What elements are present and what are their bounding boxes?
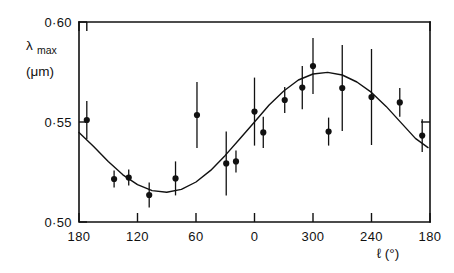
x-tick-label: 120 — [126, 229, 149, 244]
y-tick-label: 0·60 — [44, 15, 72, 30]
y-axis-symbol: λ — [26, 38, 33, 53]
data-marker — [282, 97, 288, 103]
data-marker — [194, 112, 200, 118]
data-point — [84, 101, 90, 139]
data-point — [310, 38, 316, 94]
data-point — [260, 117, 266, 148]
data-marker — [397, 99, 403, 105]
x-tick-label: 240 — [360, 229, 383, 244]
x-axis-title: ℓ (°) — [377, 246, 400, 261]
data-marker — [310, 63, 316, 69]
data-marker — [260, 129, 266, 135]
data-point — [146, 182, 152, 207]
x-axis-top-ticks — [79, 22, 430, 31]
data-marker — [326, 129, 332, 135]
data-point — [419, 119, 425, 152]
x-tick-label: 180 — [419, 229, 442, 244]
data-marker — [299, 85, 305, 91]
data-marker — [233, 158, 239, 164]
figure-container: 0·600·550·50 180120600300240180 λ max (μ… — [0, 0, 454, 273]
data-marker — [339, 85, 345, 91]
y-tick-label: 0·50 — [44, 215, 72, 230]
x-tick-label: 0 — [251, 229, 259, 244]
data-point — [126, 170, 132, 186]
data-marker — [368, 94, 374, 100]
data-point — [326, 118, 332, 146]
y-axis-units: (μm) — [26, 64, 54, 79]
data-point — [368, 49, 374, 145]
data-marker — [172, 175, 178, 181]
data-point — [194, 82, 200, 148]
data-marker — [111, 176, 117, 182]
y-tick-label: 0·55 — [44, 115, 72, 130]
y-axis-subscript: max — [37, 44, 58, 56]
data-marker — [419, 133, 425, 139]
data-point — [111, 171, 117, 188]
x-axis-ticks — [79, 213, 430, 222]
data-point — [251, 78, 257, 146]
x-axis-tick-labels: 180120600300240180 — [68, 229, 442, 244]
x-tick-label: 60 — [188, 229, 203, 244]
x-tick-label: 300 — [302, 229, 325, 244]
fitted-sinusoid-curve — [79, 72, 428, 192]
x-tick-label: 180 — [68, 229, 91, 244]
data-marker — [223, 160, 229, 166]
data-point — [223, 131, 229, 195]
data-marker — [126, 175, 132, 181]
data-point — [339, 45, 345, 131]
data-marker — [84, 117, 90, 123]
data-point — [299, 66, 305, 109]
data-point — [233, 150, 239, 172]
data-marker — [146, 192, 152, 198]
data-point — [397, 88, 403, 117]
data-marker — [251, 109, 257, 115]
y-axis-title: λ max (μm) — [26, 38, 58, 79]
data-point — [282, 87, 288, 113]
lambda-max-vs-galactic-longitude-chart: 0·600·550·50 180120600300240180 λ max (μ… — [0, 0, 454, 273]
